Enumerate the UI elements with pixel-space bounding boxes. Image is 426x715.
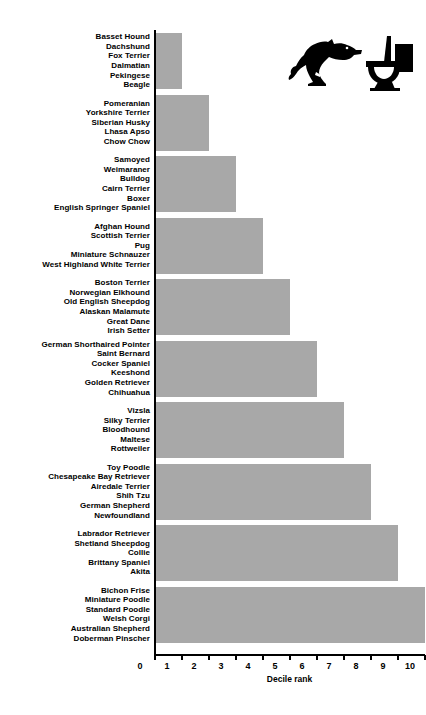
bar	[155, 156, 236, 212]
x-axis-tick	[154, 655, 156, 660]
breed-label: Irish Setter	[0, 326, 150, 336]
breed-label: Collie	[0, 548, 150, 558]
x-axis-tick-label: 10	[395, 661, 425, 671]
x-axis-tick-label: 5	[260, 661, 290, 671]
bar-group: Bichon FriseMiniature PoodleStandard Poo…	[0, 587, 426, 648]
breed-label: Chihuahua	[0, 388, 150, 398]
x-axis-tick	[397, 655, 399, 660]
bar	[155, 218, 263, 274]
breed-label: Brittany Spaniel	[0, 558, 150, 568]
breed-label-group: Afghan HoundScottish TerrierPugMiniature…	[0, 222, 150, 270]
breed-label: Bloodhound	[0, 425, 150, 435]
bar	[155, 279, 290, 335]
breed-label: Keeshond	[0, 368, 150, 378]
breed-label: Scottish Terrier	[0, 231, 150, 241]
breed-label: Pug	[0, 241, 150, 251]
x-axis-title: Decile rank	[154, 674, 425, 684]
dog-and-toilet-illustration	[288, 34, 420, 92]
breed-label: Bulldog	[0, 174, 150, 184]
breed-label: Miniature Poodle	[0, 595, 150, 605]
x-axis-tick-label: 6	[287, 661, 317, 671]
dog-intelligence-decile-chart: Basset HoundDachshundFox TerrierDalmatia…	[0, 0, 426, 715]
bar-group: Afghan HoundScottish TerrierPugMiniature…	[0, 218, 426, 279]
breed-label-group: Basset HoundDachshundFox TerrierDalmatia…	[0, 32, 150, 90]
bar-group: Toy PoodleChesapeake Bay RetrieverAireda…	[0, 464, 426, 525]
breed-label: Toy Poodle	[0, 463, 150, 473]
breed-label: Chow Chow	[0, 137, 150, 147]
bar	[155, 95, 209, 151]
breed-label: Silky Terrier	[0, 416, 150, 426]
x-axis-tick	[208, 655, 210, 660]
breed-label: Newfoundland	[0, 511, 150, 521]
breed-label: Boxer	[0, 194, 150, 204]
breed-label: Weimaraner	[0, 165, 150, 175]
bar-group: PomeranianYorkshire TerrierSiberian Husk…	[0, 95, 426, 156]
breed-label-group: Toy PoodleChesapeake Bay RetrieverAireda…	[0, 463, 150, 521]
breed-label-group: SamoyedWeimaranerBulldogCairn TerrierBox…	[0, 155, 150, 213]
breed-label: Pekingese	[0, 71, 150, 81]
breed-label: Doberman Pinscher	[0, 634, 150, 644]
breed-label: Cocker Spaniel	[0, 359, 150, 369]
x-axis-tick-label: 1	[152, 661, 182, 671]
breed-label: Afghan Hound	[0, 222, 150, 232]
bar-group: SamoyedWeimaranerBulldogCairn TerrierBox…	[0, 156, 426, 217]
breed-label: English Springer Spaniel	[0, 203, 150, 213]
y-axis-spine	[154, 30, 156, 655]
breed-label: Dachshund	[0, 42, 150, 52]
x-axis-tick-label: 4	[233, 661, 263, 671]
x-axis-tick-label: 0	[125, 661, 155, 671]
breed-label: Airedale Terrier	[0, 482, 150, 492]
breed-label: Lhasa Apso	[0, 127, 150, 137]
bar	[155, 587, 425, 643]
breed-label-group: Boston TerrierNorwegian ElkhoundOld Engl…	[0, 278, 150, 336]
bar-group: VizslaSilky TerrierBloodhoundMalteseRott…	[0, 402, 426, 463]
breed-label: Maltese	[0, 435, 150, 445]
breed-label: Norwegian Elkhound	[0, 288, 150, 298]
bar-group: Labrador RetrieverShetland SheepdogColli…	[0, 525, 426, 586]
breed-label: Great Dane	[0, 317, 150, 327]
breed-label-group: Labrador RetrieverShetland SheepdogColli…	[0, 529, 150, 577]
breed-label: Golden Retriever	[0, 378, 150, 388]
breed-label-group: Bichon FriseMiniature PoodleStandard Poo…	[0, 586, 150, 644]
x-axis-tick	[343, 655, 345, 660]
x-axis-tick	[262, 655, 264, 660]
x-axis-tick	[181, 655, 183, 660]
bar	[155, 464, 371, 520]
bar-group: German Shorthaired PointerSaint BernardC…	[0, 341, 426, 402]
breed-label-group: PomeranianYorkshire TerrierSiberian Husk…	[0, 99, 150, 147]
bar-group: Boston TerrierNorwegian ElkhoundOld Engl…	[0, 279, 426, 340]
breed-label: Yorkshire Terrier	[0, 108, 150, 118]
breed-label: Akita	[0, 567, 150, 577]
breed-label: Australian Shepherd	[0, 624, 150, 634]
breed-label: Chesapeake Bay Retriever	[0, 472, 150, 482]
breed-label: Bichon Frise	[0, 586, 150, 596]
breed-label: Standard Poodle	[0, 605, 150, 615]
bar	[155, 402, 344, 458]
breed-label: Pomeranian	[0, 99, 150, 109]
breed-label: German Shorthaired Pointer	[0, 340, 150, 350]
breed-label: Welsh Corgi	[0, 614, 150, 624]
breed-label: Alaskan Malamute	[0, 307, 150, 317]
breed-label: Rottweiler	[0, 444, 150, 454]
breed-label: Beagle	[0, 80, 150, 90]
breed-label: Siberian Husky	[0, 118, 150, 128]
breed-label: Labrador Retriever	[0, 529, 150, 539]
breed-label-group: German Shorthaired PointerSaint BernardC…	[0, 340, 150, 398]
x-axis-tick-label: 8	[341, 661, 371, 671]
bar	[155, 341, 317, 397]
x-axis-tick-label: 2	[179, 661, 209, 671]
breed-label: German Shepherd	[0, 501, 150, 511]
breed-label: Boston Terrier	[0, 278, 150, 288]
breed-label: Shetland Sheepdog	[0, 539, 150, 549]
x-axis-tick	[289, 655, 291, 660]
bar	[155, 525, 398, 581]
breed-label: Fox Terrier	[0, 51, 150, 61]
breed-label: West Highland White Terrier	[0, 260, 150, 270]
breed-label-group: VizslaSilky TerrierBloodhoundMalteseRott…	[0, 406, 150, 454]
x-axis-tick-label: 3	[206, 661, 236, 671]
breed-label: Vizsla	[0, 406, 150, 416]
x-axis-tick	[235, 655, 237, 660]
breed-label: Samoyed	[0, 155, 150, 165]
breed-label: Shih Tzu	[0, 491, 150, 501]
x-axis-tick	[370, 655, 372, 660]
